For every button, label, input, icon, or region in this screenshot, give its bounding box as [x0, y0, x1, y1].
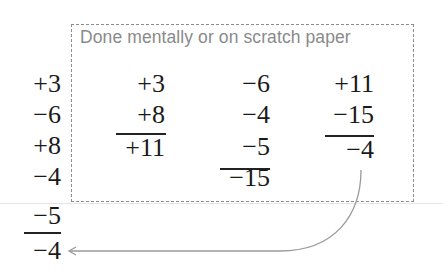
curved-arrow-left-icon — [0, 0, 443, 278]
worked-example: Done mentally or on scratch paper +3 −6 … — [0, 0, 443, 278]
